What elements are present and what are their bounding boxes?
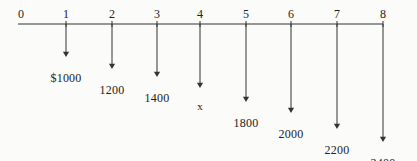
tick-label-7: 7 bbox=[334, 8, 340, 20]
tick-label-4: 4 bbox=[197, 8, 203, 20]
arrow-head bbox=[380, 137, 386, 142]
tick-label-0: 0 bbox=[18, 8, 24, 20]
arrow-head bbox=[288, 108, 294, 113]
arrow-head bbox=[63, 52, 69, 57]
flow-label-period-2: 1200 bbox=[100, 84, 125, 96]
tick-label-5: 5 bbox=[243, 8, 249, 20]
flow-label-period-3: 1400 bbox=[145, 92, 170, 104]
flow-label-period-5: 1800 bbox=[234, 117, 259, 129]
cash-flow-diagram: 012345678 $100012001400x1800200022002400 bbox=[0, 0, 417, 161]
flow-label-period-8: 2400 bbox=[371, 157, 396, 161]
flow-label-period-4: x bbox=[197, 101, 203, 112]
flow-label-period-7: 2200 bbox=[325, 144, 350, 156]
flow-label-period-6: 2000 bbox=[279, 128, 304, 140]
arrow-head bbox=[334, 124, 340, 129]
arrow-head bbox=[243, 97, 249, 102]
tick-label-6: 6 bbox=[288, 8, 294, 20]
tick-label-1: 1 bbox=[63, 8, 69, 20]
arrow-head bbox=[197, 83, 203, 88]
tick-label-2: 2 bbox=[109, 8, 115, 20]
arrow-head bbox=[154, 72, 160, 77]
tick-label-3: 3 bbox=[154, 8, 160, 20]
arrow-head bbox=[109, 64, 115, 69]
flow-label-period-1: $1000 bbox=[51, 72, 82, 84]
tick-label-8: 8 bbox=[380, 8, 386, 20]
